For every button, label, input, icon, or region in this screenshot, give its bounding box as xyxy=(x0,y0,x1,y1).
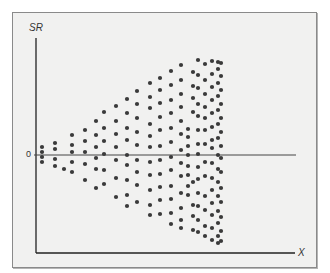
data-point xyxy=(179,174,183,178)
data-point xyxy=(203,105,207,109)
data-point xyxy=(219,239,223,243)
data-point xyxy=(191,84,195,88)
data-point xyxy=(158,88,162,92)
data-point xyxy=(125,193,129,197)
data-point xyxy=(94,119,98,123)
data-point xyxy=(210,138,214,142)
data-point xyxy=(102,182,106,186)
data-point xyxy=(148,95,152,99)
data-point xyxy=(191,203,195,207)
data-point xyxy=(191,110,195,114)
data-point xyxy=(169,222,173,226)
data-point xyxy=(196,152,200,156)
data-point xyxy=(179,105,183,109)
data-point xyxy=(203,160,207,164)
data-point xyxy=(169,184,173,188)
data-point xyxy=(125,204,129,208)
data-point xyxy=(158,144,162,148)
data-point xyxy=(125,163,129,167)
data-point xyxy=(158,212,162,216)
data-point xyxy=(125,111,129,115)
data-point xyxy=(196,128,200,132)
data-point xyxy=(148,173,152,177)
data-point xyxy=(83,139,87,143)
data-point xyxy=(114,176,118,180)
data-point xyxy=(219,186,223,190)
data-point xyxy=(148,81,152,85)
data-point xyxy=(210,226,214,230)
data-point xyxy=(135,130,139,134)
y-axis-label: SR xyxy=(29,22,43,33)
data-point xyxy=(179,161,183,165)
data-point xyxy=(169,155,173,159)
data-point xyxy=(135,116,139,120)
data-point xyxy=(125,153,129,157)
data-point xyxy=(191,214,195,218)
data-point xyxy=(114,119,118,123)
data-point xyxy=(148,145,152,149)
data-point xyxy=(40,150,44,154)
data-point xyxy=(179,92,183,96)
data-point xyxy=(135,89,139,93)
data-point xyxy=(210,238,214,242)
data-point xyxy=(135,170,139,174)
data-point xyxy=(70,143,74,147)
y-tick-zero: 0 xyxy=(26,149,31,159)
data-point xyxy=(219,144,223,148)
data-point xyxy=(125,126,129,130)
data-point xyxy=(191,180,195,184)
data-point xyxy=(219,102,223,106)
data-point xyxy=(125,97,129,101)
data-point xyxy=(135,200,139,204)
data-point xyxy=(216,67,220,71)
data-point xyxy=(62,167,66,171)
data-point xyxy=(186,153,190,157)
data-point xyxy=(114,132,118,136)
data-point xyxy=(219,229,223,233)
data-point xyxy=(203,224,207,228)
data-point xyxy=(186,164,190,168)
data-point xyxy=(83,128,87,132)
data-point xyxy=(94,167,98,171)
data-point xyxy=(102,126,106,130)
data-point xyxy=(148,213,152,217)
data-point xyxy=(179,148,183,152)
data-point xyxy=(40,155,44,159)
data-point xyxy=(83,150,87,154)
data-point xyxy=(125,138,129,142)
data-point xyxy=(70,170,74,174)
data-point xyxy=(169,140,173,144)
data-point xyxy=(148,106,152,110)
data-point xyxy=(216,167,220,171)
data-point xyxy=(196,86,200,90)
data-point xyxy=(219,116,223,120)
data-point xyxy=(53,157,57,161)
data-point xyxy=(114,145,118,149)
data-point xyxy=(186,135,190,139)
data-point xyxy=(94,156,98,160)
data-point xyxy=(53,141,57,145)
data-point xyxy=(70,160,74,164)
data-point xyxy=(203,194,207,198)
data-point xyxy=(216,153,220,157)
data-point xyxy=(216,221,220,225)
data-point xyxy=(102,139,106,143)
data-point xyxy=(40,160,44,164)
data-point xyxy=(216,108,220,112)
data-point xyxy=(53,147,57,151)
data-point xyxy=(169,69,173,73)
data-point xyxy=(148,203,152,207)
data-point xyxy=(94,145,98,149)
data-point xyxy=(179,218,183,222)
data-point xyxy=(210,176,214,180)
data-point xyxy=(219,61,223,65)
data-point xyxy=(191,96,195,100)
data-point xyxy=(216,136,220,140)
data-point xyxy=(203,208,207,212)
data-point xyxy=(210,72,214,76)
data-point xyxy=(169,126,173,130)
data-point xyxy=(210,85,214,89)
data-point xyxy=(196,230,200,234)
data-point xyxy=(210,98,214,102)
data-point xyxy=(219,215,223,219)
